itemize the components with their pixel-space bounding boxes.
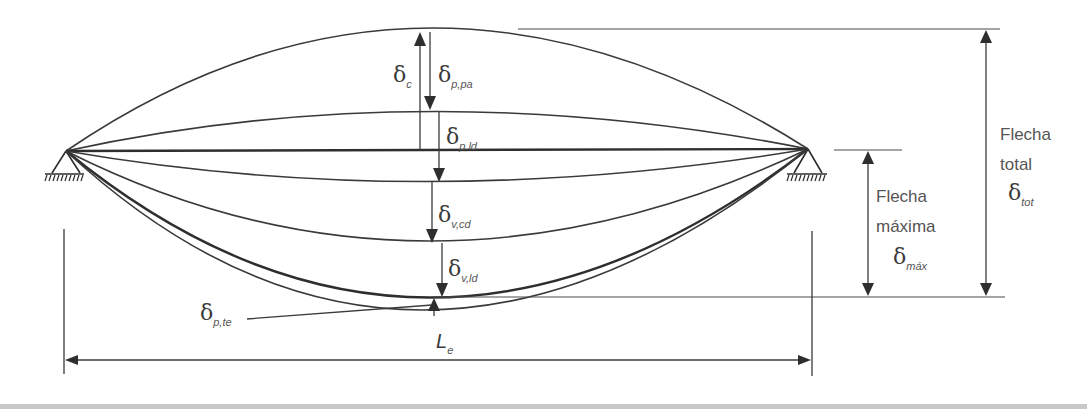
prestress-instant-label: δp,pa <box>438 62 473 90</box>
prestress-instant-arrow <box>424 32 436 110</box>
camber-arrow <box>414 32 426 150</box>
span-dimension-arrow <box>65 355 811 365</box>
span-label: Le <box>436 330 453 356</box>
total-deflection-title-line1: Flecha <box>1000 125 1052 144</box>
variable-short-arrow <box>426 182 438 243</box>
max-deflection-title-line1: Flecha <box>876 187 928 206</box>
curve-camber <box>66 28 808 151</box>
variable-short-label: δv,cd <box>438 202 471 230</box>
total-deflection-symbol: δtot <box>1008 180 1034 208</box>
prestress-long-term-arrow <box>433 112 445 182</box>
max-deflection-symbol: δmáx <box>893 244 928 272</box>
thermal-label: δp,te <box>200 300 232 328</box>
max-deflection-arrow <box>862 151 874 296</box>
left-pin-support-icon <box>45 151 84 181</box>
prestress-long-term-label: δp,ld <box>446 124 478 152</box>
curve-undeformed <box>66 149 808 151</box>
curve-after-prestress <box>66 111 808 151</box>
variable-long-arrow <box>436 243 448 297</box>
total-deflection-title-line2: total <box>1000 155 1032 174</box>
beam-deflection-diagram: δc δp,pa δp,ld δv,cd δv,ld δp,te Le Flec… <box>0 0 1087 409</box>
right-pin-support-icon <box>787 149 827 181</box>
thermal-leader-line <box>247 305 432 319</box>
bottom-divider <box>0 404 1087 409</box>
thermal-arrow <box>428 298 440 316</box>
max-deflection-title-line2: máxima <box>876 217 936 236</box>
variable-long-label: δv,ld <box>448 256 478 284</box>
total-deflection-arrow <box>980 30 992 296</box>
camber-label: δc <box>393 62 412 90</box>
